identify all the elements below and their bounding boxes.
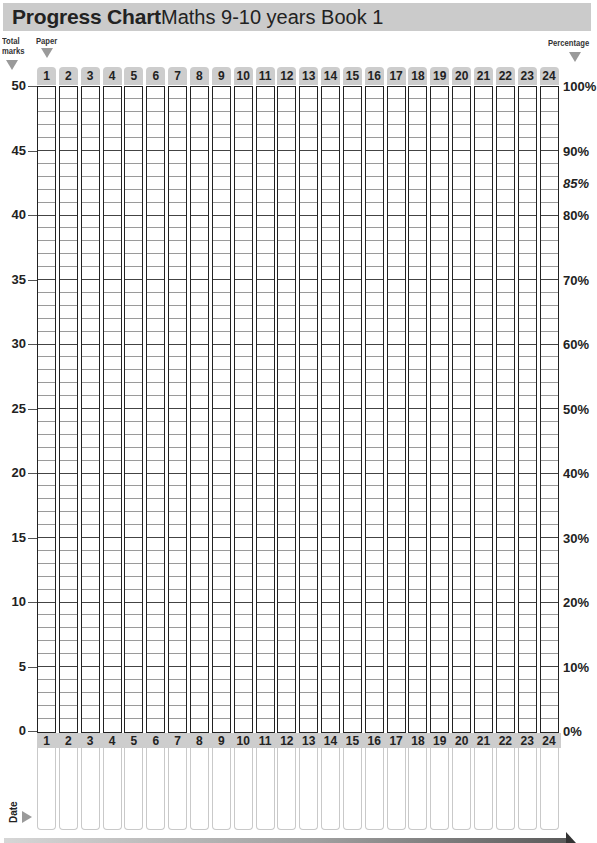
date-entry-box[interactable] (168, 748, 187, 830)
minor-gridline (38, 576, 55, 577)
paper-score-column[interactable] (408, 86, 427, 733)
minor-gridline (344, 589, 361, 590)
paper-score-column[interactable] (212, 86, 231, 733)
date-entry-box[interactable] (37, 748, 56, 830)
minor-gridline (431, 331, 448, 332)
major-gridline (475, 279, 492, 280)
paper-score-column[interactable] (234, 86, 253, 733)
minor-gridline (519, 266, 536, 267)
date-entry-box[interactable] (321, 748, 340, 830)
major-gridline (519, 344, 536, 345)
date-entry-box[interactable] (365, 748, 384, 830)
major-gridline (104, 602, 121, 603)
paper-score-column[interactable] (343, 86, 362, 733)
minor-gridline (431, 305, 448, 306)
paper-score-column[interactable] (277, 86, 296, 733)
minor-gridline (541, 627, 558, 628)
minor-gridline (235, 524, 252, 525)
paper-score-column[interactable] (496, 86, 515, 733)
date-entry-box[interactable] (452, 748, 471, 830)
paper-score-column[interactable] (103, 86, 122, 733)
date-entry-box[interactable] (430, 748, 449, 830)
paper-number-tab-top: 1 (37, 67, 56, 85)
minor-gridline (191, 253, 208, 254)
marks-axis-tick (28, 86, 37, 87)
minor-gridline (213, 614, 230, 615)
paper-score-column[interactable] (124, 86, 143, 733)
paper-score-column[interactable] (430, 86, 449, 733)
date-entry-box[interactable] (256, 748, 275, 830)
major-gridline (300, 408, 317, 409)
minor-gridline (388, 576, 405, 577)
paper-score-column[interactable] (299, 86, 318, 733)
date-entry-box[interactable] (124, 748, 143, 830)
date-entry-box[interactable] (59, 748, 78, 830)
minor-gridline (497, 421, 514, 422)
paper-score-column[interactable] (59, 86, 78, 733)
minor-gridline (519, 382, 536, 383)
minor-gridline (431, 111, 448, 112)
date-entry-box[interactable] (146, 748, 165, 830)
paper-score-column[interactable] (37, 86, 56, 733)
minor-gridline (38, 511, 55, 512)
paper-score-column[interactable] (321, 86, 340, 733)
paper-score-column[interactable] (452, 86, 471, 733)
date-entry-box[interactable] (343, 748, 362, 830)
major-gridline (497, 537, 514, 538)
minor-gridline (169, 485, 186, 486)
major-gridline (191, 150, 208, 151)
date-entry-box[interactable] (299, 748, 318, 830)
paper-score-column[interactable] (540, 86, 559, 733)
minor-gridline (541, 202, 558, 203)
date-entry-box[interactable] (81, 748, 100, 830)
date-entry-box[interactable] (234, 748, 253, 830)
paper-number-label-bottom: 1 (37, 733, 56, 748)
minor-gridline (147, 511, 164, 512)
minor-gridline (104, 692, 121, 693)
date-entry-box[interactable] (496, 748, 515, 830)
minor-gridline (453, 318, 470, 319)
minor-gridline (453, 305, 470, 306)
minor-gridline (497, 524, 514, 525)
paper-score-column[interactable] (146, 86, 165, 733)
paper-score-column[interactable] (190, 86, 209, 733)
date-entry-box[interactable] (387, 748, 406, 830)
minor-gridline (344, 692, 361, 693)
major-gridline (213, 150, 230, 151)
paper-score-column[interactable] (365, 86, 384, 733)
minor-gridline (235, 614, 252, 615)
minor-gridline (366, 98, 383, 99)
minor-gridline (475, 395, 492, 396)
paper-score-column[interactable] (387, 86, 406, 733)
paper-score-column[interactable] (256, 86, 275, 733)
date-entry-box[interactable] (277, 748, 296, 830)
date-entry-box[interactable] (474, 748, 493, 830)
minor-gridline (300, 550, 317, 551)
date-entry-box[interactable] (103, 748, 122, 830)
date-entry-box[interactable] (408, 748, 427, 830)
paper-number-label-bottom: 18 (408, 733, 427, 748)
minor-gridline (497, 124, 514, 125)
major-gridline (344, 666, 361, 667)
minor-gridline (213, 524, 230, 525)
marks-axis-tick (28, 731, 37, 732)
minor-gridline (147, 137, 164, 138)
major-gridline (257, 473, 274, 474)
date-entry-box[interactable] (540, 748, 559, 830)
minor-gridline (82, 111, 99, 112)
minor-gridline (453, 434, 470, 435)
minor-gridline (82, 524, 99, 525)
paper-score-column[interactable] (518, 86, 537, 733)
minor-gridline (213, 227, 230, 228)
paper-score-column[interactable] (474, 86, 493, 733)
minor-gridline (475, 202, 492, 203)
date-entry-box[interactable] (518, 748, 537, 830)
date-entry-box[interactable] (190, 748, 209, 830)
minor-gridline (147, 318, 164, 319)
minor-gridline (278, 202, 295, 203)
major-gridline (213, 408, 230, 409)
minor-gridline (497, 395, 514, 396)
paper-score-column[interactable] (168, 86, 187, 733)
date-entry-box[interactable] (212, 748, 231, 830)
paper-score-column[interactable] (81, 86, 100, 733)
